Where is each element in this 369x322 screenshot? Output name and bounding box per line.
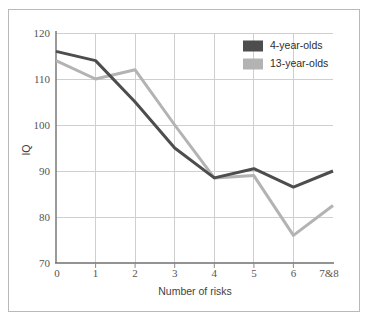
x-tick-labels: 0 1 2 3 4 5 6 7&8 <box>54 267 339 279</box>
y-tick-label-100: 100 <box>34 119 51 131</box>
y-tick-label-90: 90 <box>39 165 51 177</box>
legend-label-4-year-olds: 4-year-olds <box>270 39 323 51</box>
x-tick-label-4: 4 <box>212 267 218 279</box>
y-tick-label-70: 70 <box>39 257 51 269</box>
x-tick-label-5: 5 <box>251 267 257 279</box>
legend-swatch-4-year-olds <box>243 41 263 52</box>
x-tick-label-2: 2 <box>132 267 138 279</box>
series-line-4-year-olds <box>56 51 333 187</box>
x-tick-label-6: 6 <box>291 267 297 279</box>
legend: 4-year-olds 13-year-olds <box>243 39 328 69</box>
x-tick-marks <box>96 263 294 268</box>
legend-label-13-year-olds: 13-year-olds <box>270 57 328 69</box>
y-tick-label-110: 110 <box>34 73 51 85</box>
figure: 120 110 100 90 80 70 0 1 2 3 4 5 6 7&8 <box>0 0 369 322</box>
y-tick-label-120: 120 <box>34 27 51 39</box>
legend-swatch-13-year-olds <box>243 59 263 70</box>
y-tick-label-80: 80 <box>39 211 51 223</box>
x-tick-label-3: 3 <box>172 267 178 279</box>
y-tick-labels: 120 110 100 90 80 70 <box>34 27 51 269</box>
line-chart: 120 110 100 90 80 70 0 1 2 3 4 5 6 7&8 <box>0 0 369 322</box>
series-line-13-year-olds <box>56 61 333 236</box>
x-axis-title: Number of risks <box>158 285 232 297</box>
x-tick-label-0: 0 <box>54 267 60 279</box>
y-axis-title: IQ <box>20 144 32 155</box>
x-tick-label-1: 1 <box>93 267 99 279</box>
x-tick-label-7and8: 7&8 <box>319 267 339 279</box>
